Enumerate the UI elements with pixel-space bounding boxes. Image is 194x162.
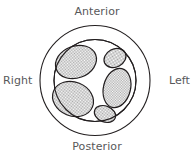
diagram-canvas: Anterior Posterior Right Left [0,0,194,162]
label-left: Left [169,74,190,87]
label-anterior: Anterior [0,5,194,18]
label-right: Right [3,74,32,87]
label-posterior: Posterior [0,140,194,153]
